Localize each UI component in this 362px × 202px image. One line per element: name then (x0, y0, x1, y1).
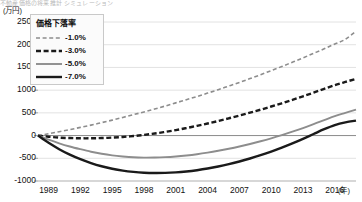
legend-line-swatch-icon (36, 46, 62, 56)
y-tick-label: -500 (4, 153, 36, 162)
legend-item-label: -7.0% (65, 72, 86, 82)
legend-line-swatch-icon (36, 72, 62, 82)
chart-container: 不動産価格の将来推計 シミュレーション (万円) (年) 25002000150… (0, 0, 362, 202)
series-line-30 (38, 79, 356, 139)
legend: 価格下落率 -1.0%-3.0%-5.0%-7.0% (30, 14, 104, 85)
legend-item: -7.0% (36, 70, 99, 83)
legend-line-swatch-icon (36, 59, 62, 69)
y-tick-label: 1000 (4, 85, 36, 94)
legend-item-label: -5.0% (65, 59, 86, 69)
legend-title: 価格下落率 (36, 18, 99, 29)
legend-item-label: -1.0% (65, 33, 86, 43)
y-tick-label: 0 (4, 131, 36, 140)
series-line-50 (38, 110, 356, 158)
y-tick-label: 500 (4, 108, 36, 117)
x-tick-label: 2016 (315, 186, 355, 195)
series-line-70 (38, 121, 356, 173)
legend-item: -1.0% (36, 31, 99, 44)
legend-items: -1.0%-3.0%-5.0%-7.0% (36, 31, 99, 83)
legend-item: -3.0% (36, 44, 99, 57)
legend-item-label: -3.0% (65, 46, 86, 56)
y-tick-label: -1000 (4, 176, 36, 185)
legend-item: -5.0% (36, 57, 99, 70)
legend-line-swatch-icon (36, 33, 62, 43)
